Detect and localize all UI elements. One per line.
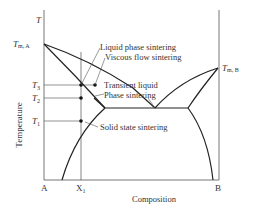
label-viscous-flow: Viscous flow sintering [105, 52, 182, 62]
label-liquid-phase: Liquid phase sintering [100, 42, 177, 52]
t3-label: T3 [32, 80, 40, 91]
t-symbol: T [36, 15, 42, 25]
label-phase-sintering: Phase sintering [104, 90, 156, 100]
point-t2 [79, 96, 83, 100]
x-axis-label: Composition [132, 194, 177, 204]
y-axis-label: Temperature [14, 102, 24, 147]
left-solvus-curve [62, 108, 105, 180]
left-liquidus-curve [44, 44, 105, 108]
t1-label: T1 [32, 116, 40, 127]
label-transient: Transient liquid [104, 80, 159, 90]
leader-phase [95, 94, 104, 96]
right-liquidus-curve [155, 68, 218, 108]
t2-label: T2 [32, 93, 40, 104]
tma-label: Tm, A [13, 39, 30, 49]
tick-x1: X1 [76, 183, 86, 194]
point-t1 [79, 119, 83, 123]
tick-a: A [41, 183, 48, 193]
right-solvus-curve [188, 108, 213, 180]
label-solid-state: Solid state sintering [100, 122, 168, 132]
tmb-label: Tm, B [222, 63, 239, 73]
phase-diagram: T Tm, A Tm, B T3 T2 T1 Liquid phase sint… [0, 0, 253, 213]
tick-b: B [215, 183, 221, 193]
